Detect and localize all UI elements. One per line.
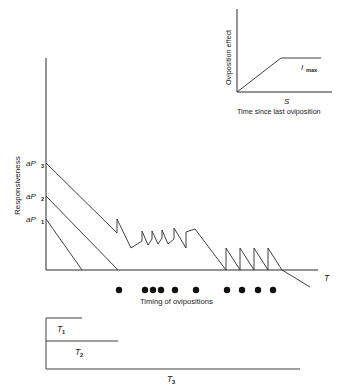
oviposition-dot-7 <box>224 287 230 293</box>
y-tick-ap1-sub: 1 <box>41 219 44 225</box>
decay-curves-group <box>46 163 310 287</box>
ovipositions-caption: Timing of ovipositions <box>140 297 213 306</box>
main-y-axis-label: Responsiveness <box>13 156 22 215</box>
oviposition-dot-3 <box>150 287 156 293</box>
inset-plot-group: Oviposition effect S I max Time since la… <box>224 9 332 116</box>
bracket-t1-sub: 1 <box>62 329 65 335</box>
curve-decay-from-aP1 <box>46 219 82 270</box>
y-tick-ap2-sub: 2 <box>41 196 44 202</box>
curve-decay-from-aP3-with-sawtooth <box>46 163 310 287</box>
bracket-label-t3: T 3 <box>167 374 175 385</box>
curve-decay-from-aP2 <box>46 196 118 270</box>
oviposition-dots-group <box>116 287 276 293</box>
figure-container: Oviposition effect S I max Time since la… <box>0 0 347 386</box>
oviposition-dot-9 <box>255 287 261 293</box>
bracket-t3-sub: 3 <box>172 379 175 385</box>
oviposition-dot-2 <box>142 287 148 293</box>
y-tick-ap2-base: aP <box>26 192 36 201</box>
oviposition-dot-10 <box>270 287 276 293</box>
inset-effect-curve <box>237 58 321 92</box>
bracket-label-t2: T 2 <box>75 347 83 358</box>
bracket-t2-sub: 2 <box>80 352 83 358</box>
oviposition-dot-4 <box>158 287 164 293</box>
oviposition-dot-6 <box>193 287 199 293</box>
oviposition-dot-5 <box>172 287 178 293</box>
main-x-axis-label: T <box>324 273 330 283</box>
inset-imax-base: I <box>301 63 304 72</box>
oviposition-dot-8 <box>239 287 245 293</box>
y-tick-label-ap2: aP 2 <box>26 192 44 202</box>
scientific-figure-svg: Oviposition effect S I max Time since la… <box>0 0 347 386</box>
oviposition-dot-1 <box>116 287 122 293</box>
inset-x-axis-label: Time since last oviposition <box>237 107 321 116</box>
inset-imax-sub: max <box>306 67 318 73</box>
inset-s-marker-label: S <box>284 97 290 106</box>
bracket-label-t1: T 1 <box>57 324 65 335</box>
y-tick-ap1-base: aP <box>26 215 36 224</box>
y-tick-ap3-base: aP <box>26 159 36 168</box>
inset-y-axis-label: Oviposition effect <box>224 30 233 85</box>
y-tick-ap3-sub: 3 <box>41 163 44 169</box>
y-tick-label-ap3: aP 3 <box>26 159 44 169</box>
inset-imax-label: I max <box>301 63 318 73</box>
duration-brackets-group <box>46 318 300 369</box>
y-tick-label-ap1: aP 1 <box>26 215 44 225</box>
